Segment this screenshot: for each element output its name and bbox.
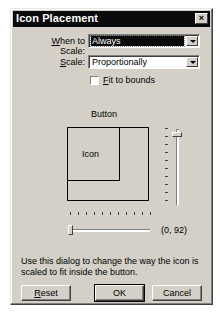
when-to-scale-label: When to Scale: (25, 36, 85, 56)
label-text: hen to Scale: (60, 36, 85, 56)
close-x-icon: × (199, 13, 204, 23)
icon-placement-dialog: Icon Placement × When to Scale: Always S… (10, 8, 213, 305)
close-button[interactable]: × (195, 13, 208, 24)
position-readout: (0, 92) (161, 225, 187, 235)
fit-to-bounds-checkbox[interactable] (90, 76, 99, 85)
label-text: it to bounds (109, 75, 156, 85)
when-to-scale-value: Always (91, 36, 184, 46)
vertical-slider-track[interactable] (176, 129, 179, 205)
chevron-down-icon[interactable] (186, 36, 198, 46)
horizontal-slider-thumb[interactable] (68, 225, 73, 235)
accelerator-key: W (51, 36, 60, 46)
reset-button[interactable]: Reset (21, 285, 71, 301)
icon-preview-label: Icon (82, 149, 99, 159)
icon-bounds-box: Icon (67, 127, 120, 181)
scale-dropdown[interactable]: Proportionally (88, 55, 200, 69)
cancel-button[interactable]: Cancel (152, 285, 202, 301)
scale-label: Scale: (25, 57, 85, 67)
when-to-scale-dropdown[interactable]: Always (88, 34, 200, 48)
dialog-title: Icon Placement (16, 12, 98, 24)
title-bar[interactable]: Icon Placement × (13, 11, 210, 27)
button-preview-label: Button (91, 109, 117, 119)
scale-value: Proportionally (91, 57, 184, 67)
label-text: cale: (66, 57, 85, 67)
chevron-down-icon[interactable] (186, 57, 198, 67)
ok-button[interactable]: OK (95, 285, 144, 301)
description-text: Use this dialog to change the way the ic… (21, 256, 206, 278)
button-label: eset (41, 288, 58, 298)
vertical-slider-thumb[interactable] (172, 132, 182, 137)
horizontal-slider-track[interactable] (70, 229, 150, 232)
fit-to-bounds-label[interactable]: Fit to bounds (103, 75, 155, 85)
